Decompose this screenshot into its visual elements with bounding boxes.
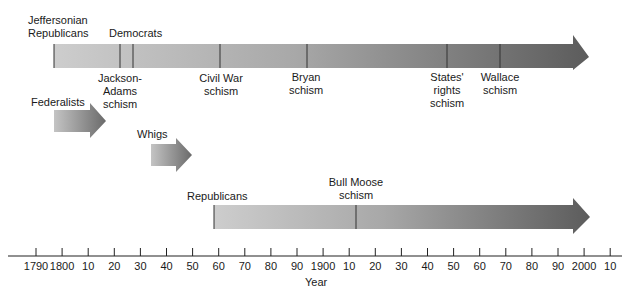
label-line: schism (423, 97, 471, 110)
x-axis-tick-label: 90 (291, 260, 303, 272)
label-whigs: Whigs (137, 128, 168, 141)
label-line: schism (326, 189, 386, 202)
label-democrats: Democrats (109, 27, 162, 40)
label-bryan-schism: Bryan schism (282, 71, 330, 97)
label-line: Republicans (28, 27, 89, 40)
label-states-rights-schism: States' rights schism (423, 71, 471, 110)
label-line: Jackson- (96, 72, 144, 85)
label-line: Adams (96, 85, 144, 98)
x-axis-tick-label: 2000 (572, 260, 596, 272)
x-axis-tick-label: 1790 (24, 260, 48, 272)
x-axis (8, 248, 622, 256)
x-axis-tick-label: 10 (604, 260, 616, 272)
democrats-arrow (54, 35, 589, 70)
x-axis-tick-label: 60 (213, 260, 225, 272)
label-line: schism (475, 84, 525, 97)
x-axis-ticks (36, 248, 610, 256)
label-federalists: Federalists (31, 96, 85, 109)
label-line: schism (282, 84, 330, 97)
x-axis-tick-label: 60 (474, 260, 486, 272)
x-axis-tick-label: 10 (82, 260, 94, 272)
label-line: Jeffersonian (28, 14, 89, 27)
label-jackson-adams-schism: Jackson- Adams schism (96, 72, 144, 111)
x-axis-tick-label: 50 (447, 260, 459, 272)
x-axis-tick-label: 70 (500, 260, 512, 272)
label-bull-moose-schism: Bull Moose schism (326, 176, 386, 202)
x-axis-tick-label: 10 (343, 260, 355, 272)
label-republicans: Republicans (187, 190, 248, 203)
label-line: Bull Moose (326, 176, 386, 189)
label-line: Bryan (282, 71, 330, 84)
label-line: Civil War (194, 72, 248, 85)
label-civil-war-schism: Civil War schism (194, 72, 248, 98)
x-axis-tick-label: 1800 (50, 260, 74, 272)
party-timeline-diagram (0, 0, 633, 298)
whigs-arrow (151, 138, 192, 172)
x-axis-tick-label: 90 (552, 260, 564, 272)
label-line: schism (96, 98, 144, 111)
label-jeffersonian-republicans: Jeffersonian Republicans (28, 14, 89, 40)
x-axis-tick-label: 1900 (311, 260, 335, 272)
label-line: schism (194, 85, 248, 98)
x-axis-tick-label: 20 (108, 260, 120, 272)
label-line: States' (423, 71, 471, 84)
label-wallace-schism: Wallace schism (475, 71, 525, 97)
label-line: Wallace (475, 71, 525, 84)
x-axis-tick-label: 30 (134, 260, 146, 272)
x-axis-tick-label: 80 (526, 260, 538, 272)
x-axis-tick-label: 40 (421, 260, 433, 272)
x-axis-tick-label: 50 (186, 260, 198, 272)
label-line: rights (423, 84, 471, 97)
x-axis-tick-label: 70 (239, 260, 251, 272)
x-axis-tick-label: 20 (369, 260, 381, 272)
x-axis-tick-label: 40 (160, 260, 172, 272)
x-axis-tick-label: 80 (265, 260, 277, 272)
x-axis-title: Year (305, 276, 327, 289)
x-axis-tick-label: 30 (395, 260, 407, 272)
republicans-arrow (214, 198, 590, 234)
